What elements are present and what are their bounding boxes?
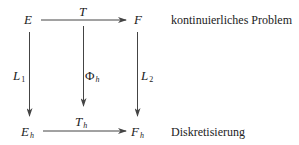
edge-Th-text: T (75, 114, 82, 129)
node-F-label: F (134, 12, 142, 27)
edge-L2-subscript: 2 (149, 75, 153, 84)
edge-label-Phih: Φh (85, 69, 100, 84)
edge-label-Th: Th (75, 115, 87, 130)
edge-label-L2: L2 (141, 69, 153, 84)
node-Eh-label: E (21, 124, 29, 139)
node-E: E (24, 13, 32, 26)
row-label-discretization: Diskretisierung (171, 126, 245, 138)
node-E-label: E (24, 12, 32, 27)
edge-T-text: T (79, 4, 86, 19)
node-Fh-subscript: h (140, 131, 144, 140)
edge-label-T: T (79, 5, 86, 18)
edge-L1-subscript: 1 (21, 75, 25, 84)
node-F: F (134, 13, 142, 26)
edge-Phih-text: Φ (85, 68, 95, 83)
edge-L2-text: L (141, 68, 148, 83)
node-Fh: Fh (131, 125, 144, 140)
edge-Phih-subscript: h (96, 75, 100, 84)
edge-Th-subscript: h (83, 121, 87, 130)
node-Eh-subscript: h (30, 131, 34, 140)
edge-L1-text: L (13, 68, 20, 83)
node-Eh: Eh (21, 125, 34, 140)
row-label-continuous: kontinuierliches Problem (171, 14, 292, 26)
edge-label-L1: L1 (13, 69, 25, 84)
node-Fh-label: F (131, 124, 139, 139)
